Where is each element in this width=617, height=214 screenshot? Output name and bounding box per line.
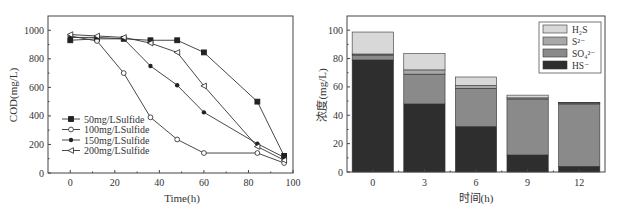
y-tick-label: 40 [333,110,343,121]
bar-segment [352,55,393,60]
dot-marker-icon [175,83,179,87]
x-tick-label: 3 [422,177,427,188]
x-tick-label: 6 [474,177,479,188]
legend-label: SO₄²⁻ [572,49,595,59]
legend-label: HS⁻ [572,61,589,71]
x-tick-label: 60 [199,177,209,188]
square-marker-icon [202,50,207,55]
stacked-bar [559,103,600,172]
y-axis-label: COD(mg/L) [7,67,20,122]
dot-marker-icon [69,138,73,142]
legend-item: 50mg/LSulfide [62,114,145,125]
triangle-marker-icon [68,148,74,154]
legend: H₂SS²⁻SO₄²⁻HS⁻ [539,22,601,73]
y-tick-label: 0 [338,167,343,178]
circle-marker-icon [255,151,260,156]
dot-marker-icon [148,64,152,68]
triangle-marker-icon [174,50,180,56]
legend-swatch [543,37,567,45]
x-axis-label: 时间(h) [459,192,494,205]
stacked-bar [404,54,445,172]
bar-segment [404,74,445,104]
bar-segment [352,32,393,54]
legend-label: S²⁻ [572,37,585,47]
y-tick-label: 800 [29,53,44,64]
bar-segment [404,54,445,70]
bar-segment [559,103,600,104]
square-marker-icon [69,117,74,122]
legend-label: H₂S [572,25,587,35]
y-tick-label: 20 [333,138,343,149]
x-axis-label: Time(h) [164,192,200,205]
y-tick-label: 200 [29,139,44,150]
bar-segment [507,99,548,155]
bar-segment [404,70,445,74]
bar-segment [404,104,445,172]
sulfur-species-bar-chart: 020406080100036912 时间(h) 浓度(mg/L) H₂SS²⁻… [310,0,617,214]
y-tick-label: 0 [39,168,44,179]
legend-item: 200mg/LSulfide [62,145,150,156]
circle-marker-icon [69,127,74,132]
x-tick-label: 20 [110,177,120,188]
bar-segment [455,85,496,88]
x-tick-label: 0 [370,177,375,188]
circle-marker-icon [175,137,180,142]
x-tick-label: 40 [154,177,164,188]
legend: 50mg/LSulfide100mg/LSulfide150mg/LSulfid… [62,114,150,157]
dot-marker-icon [202,110,206,114]
y-tick-label: 100 [328,25,343,36]
y-tick-label: 400 [29,110,44,121]
plot-area: 02040608010002004006008001000 [24,16,301,188]
x-tick-label: 80 [243,177,253,188]
square-marker-icon [175,38,180,43]
x-tick-label: 100 [286,177,301,188]
x-tick-label: 12 [574,177,584,188]
y-tick-label: 80 [333,53,343,64]
square-marker-icon [255,99,260,104]
legend-swatch [543,25,567,33]
x-tick-label: 9 [525,177,530,188]
legend-label: 100mg/LSulfide [84,124,150,135]
bar-segment [455,77,496,86]
stacked-bar [352,32,393,172]
circle-marker-icon [121,71,126,76]
stacked-bar [455,77,496,172]
triangle-marker-icon [201,83,207,89]
bar-segment [352,60,393,172]
legend-swatch [543,61,567,69]
y-tick-label: 60 [333,81,343,92]
bar-segment [507,95,548,98]
x-tick-label: 0 [68,177,73,188]
legend-item: 100mg/LSulfide [62,124,150,135]
legend-label: 200mg/LSulfide [84,145,150,156]
circle-marker-icon [148,115,153,120]
bar-segment [455,88,496,126]
y-tick-label: 600 [29,82,44,93]
bar-segment [455,127,496,172]
bar-segment [559,104,600,166]
stacked-bar [507,95,548,172]
legend-item: 150mg/LSulfide [62,135,150,146]
legend-swatch [543,49,567,57]
cod-line-chart: 02040608010002004006008001000 Time(h) CO… [0,0,310,214]
circle-marker-icon [202,151,207,156]
y-tick-label: 1000 [24,25,44,36]
legend-label: 50mg/LSulfide [84,114,145,125]
y-axis-label: 浓度(mg/L) [315,68,329,121]
legend-label: 150mg/LSulfide [84,135,150,146]
